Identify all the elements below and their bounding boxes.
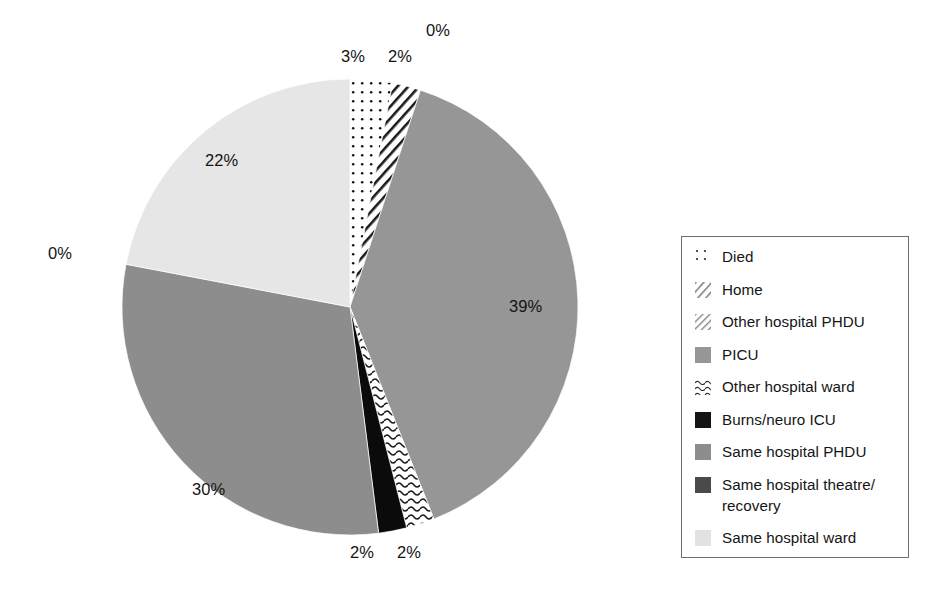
legend-swatch-pattern xyxy=(695,282,711,298)
pie-data-label: 22% xyxy=(205,151,238,170)
solid-black-swatch xyxy=(695,412,711,428)
legend-item-label: Same hospital theatre/recovery xyxy=(722,474,875,516)
solid-gray-swatch xyxy=(695,444,711,460)
pie-data-label: 2% xyxy=(388,47,412,66)
diagonal-hatch-swatch xyxy=(695,282,711,298)
legend-swatch-pattern xyxy=(695,249,711,265)
legend-item[interactable]: PICU xyxy=(682,344,908,377)
legend-item-label: Home xyxy=(722,279,763,300)
chart-legend: DiedHomeOther hospital PHDUPICUOther hos… xyxy=(681,236,909,558)
legend-item-label: Same hospital ward xyxy=(722,527,856,548)
legend-item-label: Died xyxy=(722,246,753,267)
legend-item-label: Same hospital PHDU xyxy=(722,441,866,462)
pie-data-label: 30% xyxy=(192,480,225,499)
legend-item[interactable]: Same hospital PHDU xyxy=(682,441,908,474)
legend-item[interactable]: Died xyxy=(682,246,908,279)
wavy-swatch xyxy=(695,379,711,395)
pie-data-label: 0% xyxy=(48,244,72,263)
solid-light-gray-swatch xyxy=(695,530,711,546)
legend-item-label: Other hospital ward xyxy=(722,376,855,397)
pie-data-label: 0% xyxy=(426,21,450,40)
legend-item[interactable]: Other hospital ward xyxy=(682,376,908,409)
legend-swatch-pattern xyxy=(695,314,711,330)
pie-data-label: 2% xyxy=(350,543,374,562)
legend-item[interactable]: Same hospital ward xyxy=(682,527,908,560)
light-diagonal-swatch xyxy=(695,314,711,330)
legend-swatch-pattern xyxy=(695,379,711,395)
legend-item-label: Burns/neuro ICU xyxy=(722,409,836,430)
solid-mid-gray-swatch xyxy=(695,347,711,363)
solid-dark-gray-swatch xyxy=(695,477,711,493)
legend-item[interactable]: Home xyxy=(682,279,908,312)
legend-item-label: PICU xyxy=(722,344,759,365)
pie-data-label: 3% xyxy=(341,47,365,66)
dotted-swatch xyxy=(695,249,711,265)
legend-item-label: Other hospital PHDU xyxy=(722,311,865,332)
legend-item[interactable]: Other hospital PHDU xyxy=(682,311,908,344)
pie-data-label: 39% xyxy=(509,297,542,316)
legend-item[interactable]: Burns/neuro ICU xyxy=(682,409,908,442)
pie-data-label: 2% xyxy=(397,543,421,562)
legend-item[interactable]: Same hospital theatre/recovery xyxy=(682,474,908,527)
